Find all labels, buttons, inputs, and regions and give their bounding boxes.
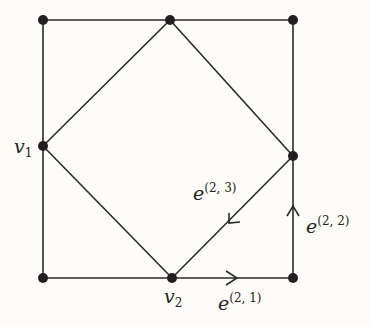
vertex-v1	[38, 141, 48, 151]
label-v2: v2	[164, 287, 182, 309]
vertex-v2	[167, 273, 177, 283]
edge-diamond-upper-right	[170, 20, 293, 156]
label-v2-base: v	[164, 285, 175, 307]
vertex-top-right	[288, 15, 298, 25]
label-e22-base: e	[306, 215, 317, 237]
edge-diamond-lower-right	[172, 156, 293, 278]
graph-diagram: v1 v2 e(2, 1) e(2, 2) e(2, 3)	[0, 0, 370, 326]
vertex-bottom-left	[38, 273, 48, 283]
label-v1: v1	[14, 137, 32, 159]
label-v1-base: v	[14, 135, 25, 157]
graph-edges	[0, 0, 370, 326]
vertex-right-mid	[288, 151, 298, 161]
label-e23-sup: (2, 3)	[204, 181, 236, 195]
edge-diamond-upper-left	[43, 20, 170, 146]
edge-diamond-lower-left	[43, 146, 172, 278]
label-v2-sub: 2	[175, 296, 183, 310]
label-e23-base: e	[193, 182, 204, 204]
label-e21-sup: (2, 1)	[229, 291, 261, 305]
label-e21-base: e	[218, 292, 229, 314]
label-e22-sup: (2, 2)	[317, 214, 349, 228]
label-e23: e(2, 3)	[193, 182, 237, 203]
label-e22: e(2, 2)	[306, 215, 350, 236]
label-v1-sub: 1	[25, 146, 33, 160]
vertex-top-mid	[165, 15, 175, 25]
label-e21: e(2, 1)	[218, 292, 262, 313]
vertex-top-left	[38, 15, 48, 25]
vertex-bottom-right	[288, 273, 298, 283]
